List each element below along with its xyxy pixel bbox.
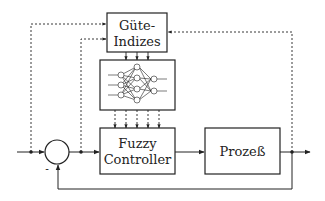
quality-to-nn-arrows bbox=[126, 52, 148, 60]
summing-junction: - bbox=[45, 140, 69, 174]
process-label: Prozeß bbox=[219, 144, 265, 159]
nn-to-controller-arrows bbox=[115, 110, 159, 128]
fuzzy-control-diagram: Güte- Indizes bbox=[0, 0, 325, 201]
minus-sign: - bbox=[45, 163, 49, 174]
process-block: Prozeß bbox=[205, 128, 280, 174]
controller-label-1: Fuzzy bbox=[118, 136, 157, 151]
quality-indices-label-2: Indizes bbox=[113, 34, 160, 49]
fuzzy-controller-block: Fuzzy Controller bbox=[100, 128, 175, 174]
neural-network-block bbox=[100, 60, 175, 110]
quality-indices-block: Güte- Indizes bbox=[107, 13, 167, 52]
controller-label-2: Controller bbox=[104, 152, 172, 167]
quality-indices-label-1: Güte- bbox=[119, 18, 155, 33]
